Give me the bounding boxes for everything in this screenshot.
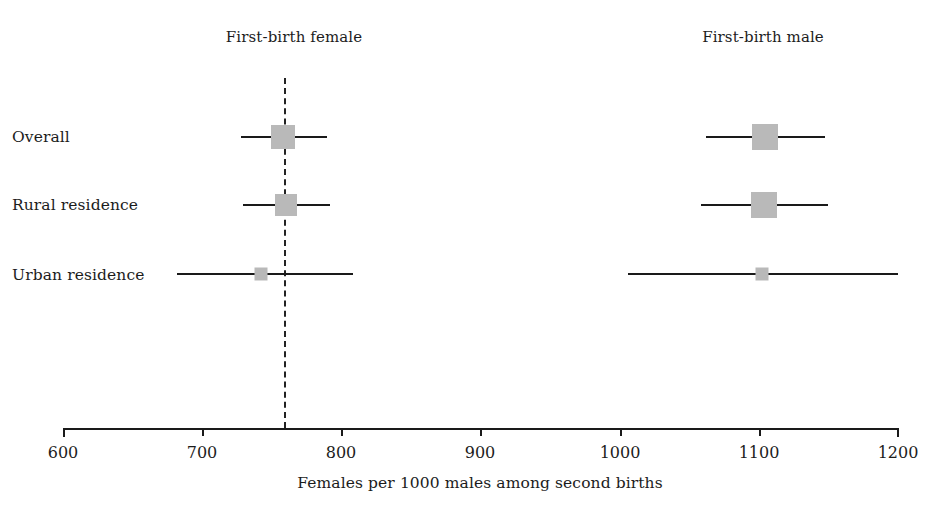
x-tick-label-600: 600 [48,443,79,462]
point-marker-female-overall [271,125,295,149]
forest-plot-chart: First-birth female First-birth male Over… [0,0,940,512]
x-axis-tick-700 [202,428,204,436]
x-tick-label-1000: 1000 [600,443,641,462]
row-label-rural-residence: Rural residence [12,196,138,214]
row-label-urban-residence: Urban residence [12,266,144,284]
x-tick-label-900: 900 [465,443,496,462]
row-label-overall: Overall [12,128,70,146]
x-tick-label-700: 700 [187,443,218,462]
x-axis-tick-800 [341,428,343,436]
x-tick-label-800: 800 [326,443,357,462]
x-axis-tick-900 [480,428,482,436]
x-tick-label-1200: 1200 [878,443,919,462]
x-axis-tick-1100 [759,428,761,436]
panel-title-first-birth-female: First-birth female [226,28,362,46]
x-axis-endcap-left [63,428,65,437]
point-marker-male-rural [751,192,777,218]
x-axis-endcap-right [897,428,899,437]
x-axis-tick-1000 [620,428,622,436]
panel-title-first-birth-male: First-birth male [702,28,824,46]
point-marker-female-rural [275,194,297,216]
x-axis-title: Females per 1000 males among second birt… [297,474,663,492]
x-tick-label-1100: 1100 [739,443,780,462]
point-marker-male-urban [756,268,769,281]
point-marker-male-overall [752,124,778,150]
point-marker-female-urban [255,268,268,281]
